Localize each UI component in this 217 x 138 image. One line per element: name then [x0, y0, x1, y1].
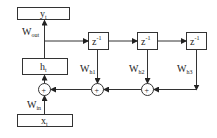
weight-h2-label: Wh2	[129, 63, 144, 75]
output-node: yt	[18, 8, 70, 21]
weight-h1-label: Wh1	[80, 63, 95, 75]
input-node: xt	[18, 115, 73, 128]
svg-text:+: +	[145, 86, 150, 95]
delay-node-2: z-1	[138, 33, 158, 50]
hidden-node: ht	[23, 59, 68, 75]
svg-text:+: +	[42, 86, 47, 95]
weight-h3-label: Wh3	[177, 63, 192, 75]
adder-1: +	[39, 84, 51, 96]
weight-out-label: Wout	[22, 26, 39, 38]
svg-text:+: +	[95, 86, 100, 95]
delay-node-1: z-1	[89, 33, 109, 50]
adder-3: +	[142, 84, 154, 96]
rnn-delay-diagram: yt ht xt z-1 z-1 z-1 + + +	[0, 0, 217, 138]
weight-in-label: Win	[27, 99, 41, 111]
adder-2: +	[92, 84, 104, 96]
delay-node-3: z-1	[187, 33, 207, 50]
